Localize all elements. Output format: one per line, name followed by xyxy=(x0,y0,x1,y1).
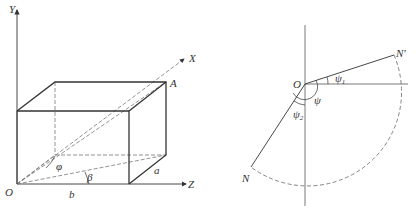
n-prime-label: N' xyxy=(395,47,406,59)
right-figure: O N' N ψ ψ1 ψ2 xyxy=(241,25,408,206)
z-axis-label: Z xyxy=(188,178,195,190)
angle-phi-arc xyxy=(46,156,55,168)
diagram-canvas: Y X Z O A a b φ β O N' N ψ ψ1 ψ2 xyxy=(0,0,416,212)
angle-psi2-arc xyxy=(294,101,305,105)
n-label: N xyxy=(241,172,250,184)
dashed-arc xyxy=(251,55,402,186)
origin-label-right: O xyxy=(293,78,301,90)
left-figure: Y X Z O A a b φ β xyxy=(5,3,197,200)
x-axis-label: X xyxy=(188,52,197,64)
angle-psi2-label: ψ2 xyxy=(293,108,304,122)
angle-psi-label: ψ xyxy=(314,94,321,106)
angle-phi-label: φ xyxy=(56,160,62,172)
origin-label: O xyxy=(5,186,13,198)
hidden-edges xyxy=(17,82,166,184)
edge-a-label: a xyxy=(154,164,160,176)
angle-psi1-arc xyxy=(327,77,328,84)
y-axis-label: Y xyxy=(9,3,17,15)
line-o-n xyxy=(251,84,305,167)
edge-b-label: b xyxy=(69,188,75,200)
point-a-label: A xyxy=(169,77,177,89)
angle-beta-label: β xyxy=(86,171,93,183)
line-o-n-prime xyxy=(305,55,394,84)
angle-psi1-label: ψ1 xyxy=(335,72,345,86)
